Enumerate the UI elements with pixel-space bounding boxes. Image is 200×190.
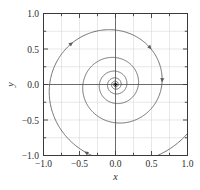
- x-axis-title: x: [112, 171, 118, 182]
- x-tick-label: 0.5: [146, 159, 158, 169]
- phase-portrait-chart: −1.0 −0.5 0.0 0.5 1.0 1.0 0.5 0.0 −0.5 −…: [0, 0, 200, 190]
- figure-container: −1.0 −0.5 0.0 0.5 1.0 1.0 0.5 0.0 −0.5 −…: [0, 0, 200, 190]
- y-axis-title: y: [5, 82, 16, 88]
- x-tick-label: −0.5: [71, 159, 88, 169]
- x-tick-label: 1.0: [182, 159, 194, 169]
- x-tick-label: 0.0: [110, 159, 122, 169]
- y-tick-label: 0.5: [27, 45, 39, 55]
- y-tick-label: 1.0: [27, 9, 39, 19]
- y-tick-label: −0.5: [22, 116, 39, 126]
- y-tick-label: −1.0: [22, 151, 39, 161]
- y-tick-label: 0.0: [27, 80, 39, 90]
